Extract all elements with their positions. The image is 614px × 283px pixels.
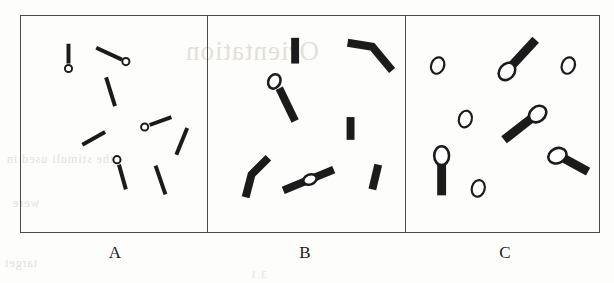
bar-with-mid-ellipse-6-ellipse (302, 172, 319, 186)
lone-ellipse-2-ellipse (559, 55, 577, 75)
bar-with-ellipse-3-stroke (512, 40, 536, 66)
bar-with-ellipse-7 (546, 145, 588, 172)
lone-ellipse-1 (429, 55, 447, 75)
bleed-line-d: 3.1 (250, 268, 267, 280)
bar-with-circle-7-circle (113, 156, 120, 163)
bar-with-ellipse-5-stroke (504, 119, 531, 140)
plain-bar-8 (156, 166, 166, 195)
bar-with-ellipse-3 (495, 40, 535, 84)
plain-bar-6 (176, 128, 187, 155)
lone-ellipse-4 (457, 109, 474, 129)
bleed-line-c: target (4, 256, 37, 271)
plain-bar-7-stroke (372, 165, 378, 190)
panel-label-b: B (260, 243, 350, 263)
panel-c-canvas (406, 16, 599, 232)
plain-bar-7 (372, 165, 378, 190)
panel-b-canvas (208, 16, 405, 232)
bar-with-ellipse-6-ellipse (434, 146, 449, 165)
lone-ellipse-1-ellipse (429, 55, 447, 75)
plain-bar-3-stroke (106, 77, 115, 106)
lone-ellipse-4-ellipse (457, 109, 474, 129)
bar-with-circle-5-stroke (150, 117, 172, 125)
stimulus-panel-b (207, 15, 406, 233)
bar-with-circle-5 (141, 117, 171, 130)
plain-bar-4 (82, 132, 105, 145)
bar-with-mid-ellipse-6 (283, 170, 333, 191)
bar-with-circle-5-circle (141, 123, 148, 130)
bar-with-circle-1-circle (65, 65, 72, 72)
bar-with-circle-2-circle (122, 58, 129, 65)
panel-a-canvas (21, 16, 207, 232)
lone-ellipse-8 (470, 179, 487, 199)
bent-bar-pair-2 (348, 43, 393, 71)
bar-with-circle-7-stroke (119, 165, 126, 190)
bar-with-ellipse-3 (266, 72, 295, 121)
bent-bar-pair-5-stroke (246, 158, 269, 198)
bar-with-ellipse-3-stroke (279, 88, 295, 121)
bent-bar-pair-5 (246, 158, 269, 198)
bar-with-circle-2 (96, 48, 129, 65)
plain-bar-8-stroke (156, 166, 166, 195)
lone-ellipse-8-ellipse (470, 179, 487, 199)
panel-label-c: C (460, 243, 550, 263)
stimulus-panel-a (20, 15, 208, 233)
bar-with-ellipse-7-stroke (564, 159, 588, 172)
plain-bar-6-stroke (176, 128, 187, 155)
plain-bar-4-stroke (82, 132, 105, 145)
bar-with-circle-2-stroke (96, 48, 122, 60)
lone-ellipse-2 (559, 55, 577, 75)
bar-with-ellipse-6 (434, 146, 449, 195)
panel-label-a: A (70, 243, 160, 263)
panel-row (20, 15, 600, 233)
bar-with-ellipse-5 (504, 102, 550, 140)
bent-bar-pair-2-stroke (348, 43, 393, 71)
bar-with-circle-7 (113, 156, 125, 189)
figure-root: Orientation the stimuli used in were tar… (0, 0, 614, 283)
stimulus-panel-c (405, 15, 600, 233)
plain-bar-3 (106, 77, 115, 106)
bar-with-circle-1 (65, 44, 72, 72)
